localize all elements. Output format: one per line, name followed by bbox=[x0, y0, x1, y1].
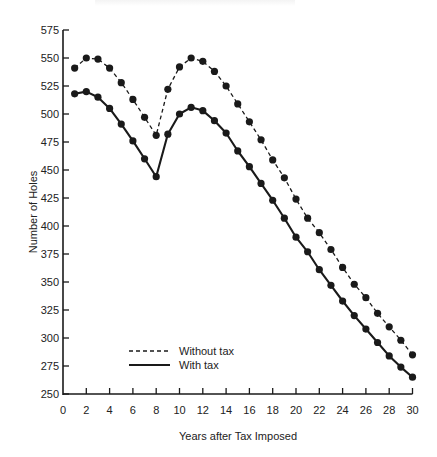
y-tick-label: 450 bbox=[41, 164, 59, 176]
data-point bbox=[269, 197, 276, 204]
data-point bbox=[316, 266, 323, 273]
data-point bbox=[386, 323, 393, 330]
series-layer bbox=[71, 54, 416, 380]
data-point bbox=[339, 264, 346, 271]
data-point bbox=[234, 100, 241, 107]
y-tick-label: 325 bbox=[41, 304, 59, 316]
data-point bbox=[362, 294, 369, 301]
y-tick-label: 350 bbox=[41, 276, 59, 288]
data-point bbox=[211, 68, 218, 75]
series-line bbox=[75, 92, 413, 378]
data-point bbox=[129, 96, 136, 103]
x-tick-label: 8 bbox=[153, 404, 159, 416]
x-axis-title: Years after Tax Imposed bbox=[179, 430, 297, 442]
data-point bbox=[351, 281, 358, 288]
x-tick-label: 24 bbox=[336, 404, 348, 416]
data-point bbox=[188, 54, 195, 61]
data-point bbox=[164, 131, 171, 138]
data-point bbox=[304, 248, 311, 255]
data-point bbox=[281, 174, 288, 181]
x-tick-label: 4 bbox=[107, 404, 113, 416]
y-tick-label: 250 bbox=[41, 388, 59, 400]
data-point bbox=[141, 155, 148, 162]
legend-label-with-tax: With tax bbox=[179, 359, 219, 371]
x-tick-label: 22 bbox=[313, 404, 325, 416]
data-point bbox=[257, 136, 264, 143]
y-tick-label: 475 bbox=[41, 136, 59, 148]
y-tick-label: 500 bbox=[41, 108, 59, 120]
data-point bbox=[281, 215, 288, 222]
x-tick-label: 28 bbox=[383, 404, 395, 416]
x-tick-label: 26 bbox=[360, 404, 372, 416]
x-tick-label: 6 bbox=[130, 404, 136, 416]
data-point bbox=[327, 282, 334, 289]
data-point bbox=[199, 107, 206, 114]
data-point bbox=[153, 173, 160, 180]
y-tick-label: 425 bbox=[41, 192, 59, 204]
data-point bbox=[246, 118, 253, 125]
data-point bbox=[362, 325, 369, 332]
data-point bbox=[71, 90, 78, 97]
data-point bbox=[129, 137, 136, 144]
x-tick-label: 10 bbox=[173, 404, 185, 416]
data-point bbox=[257, 180, 264, 187]
data-point bbox=[94, 56, 101, 63]
y-tick-label: 575 bbox=[41, 24, 59, 36]
data-point bbox=[83, 54, 90, 61]
data-point bbox=[409, 351, 416, 358]
data-point bbox=[199, 58, 206, 65]
data-point bbox=[327, 246, 334, 253]
y-tick-label: 525 bbox=[41, 80, 59, 92]
x-tick-label: 30 bbox=[406, 404, 418, 416]
data-point bbox=[374, 310, 381, 317]
data-point bbox=[118, 79, 125, 86]
data-point bbox=[339, 297, 346, 304]
data-point bbox=[397, 337, 404, 344]
x-axis: 024681012141618202224262830 bbox=[60, 388, 419, 416]
legend: Without tax With tax bbox=[129, 345, 235, 371]
data-point bbox=[118, 120, 125, 127]
data-point bbox=[211, 117, 218, 124]
x-tick-label: 14 bbox=[220, 404, 232, 416]
data-point bbox=[351, 312, 358, 319]
y-tick-label: 400 bbox=[41, 220, 59, 232]
data-point bbox=[141, 114, 148, 121]
y-axis-title: Number of Holes bbox=[27, 170, 39, 253]
data-point bbox=[153, 132, 160, 139]
line-chart: 2502753003253503754004254504755005255505… bbox=[0, 0, 437, 457]
x-tick-label: 0 bbox=[60, 404, 66, 416]
y-tick-label: 275 bbox=[41, 360, 59, 372]
x-tick-label: 2 bbox=[83, 404, 89, 416]
series-with-tax bbox=[71, 88, 416, 381]
y-axis: 2502753003253503754004254504755005255505… bbox=[41, 24, 69, 400]
legend-label-without-tax: Without tax bbox=[179, 345, 235, 357]
data-point bbox=[164, 86, 171, 93]
y-tick-label: 550 bbox=[41, 52, 59, 64]
data-point bbox=[292, 196, 299, 203]
data-point bbox=[106, 64, 113, 71]
data-point bbox=[106, 105, 113, 112]
series-without-tax bbox=[71, 54, 416, 358]
data-point bbox=[269, 156, 276, 163]
x-tick-label: 18 bbox=[267, 404, 279, 416]
x-tick-label: 20 bbox=[290, 404, 302, 416]
data-point bbox=[386, 352, 393, 359]
data-point bbox=[188, 104, 195, 111]
data-point bbox=[246, 163, 253, 170]
data-point bbox=[292, 234, 299, 241]
data-point bbox=[397, 364, 404, 371]
x-tick-label: 16 bbox=[243, 404, 255, 416]
data-point bbox=[409, 374, 416, 381]
data-point bbox=[176, 110, 183, 117]
data-point bbox=[316, 229, 323, 236]
data-point bbox=[234, 147, 241, 154]
data-point bbox=[223, 82, 230, 89]
data-point bbox=[304, 215, 311, 222]
data-point bbox=[71, 64, 78, 71]
series-line bbox=[75, 58, 413, 355]
data-point bbox=[374, 339, 381, 346]
y-tick-label: 375 bbox=[41, 248, 59, 260]
data-point bbox=[223, 129, 230, 136]
data-point bbox=[94, 94, 101, 101]
y-tick-label: 300 bbox=[41, 332, 59, 344]
